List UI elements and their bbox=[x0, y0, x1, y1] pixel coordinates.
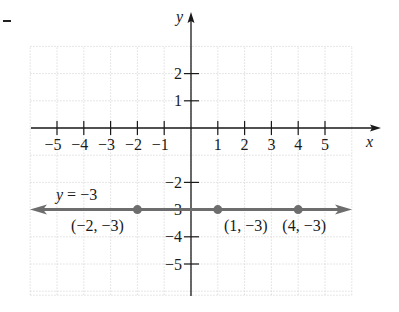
x-tick-label: −5 bbox=[44, 136, 61, 153]
x-tick-label: −1 bbox=[152, 136, 169, 153]
data-point bbox=[213, 205, 222, 214]
point-label: (1, −3) bbox=[224, 217, 268, 235]
equation-label: y = −3 bbox=[54, 186, 97, 204]
x-tick-label: −2 bbox=[125, 136, 142, 153]
y-tick-label: −5 bbox=[165, 256, 182, 273]
x-axis-label: x bbox=[365, 133, 373, 150]
point-label: (4, −3) bbox=[282, 217, 326, 235]
corner-mark bbox=[3, 20, 11, 22]
x-tick-label: 2 bbox=[241, 136, 249, 153]
x-tick-label: 3 bbox=[267, 136, 275, 153]
x-tick-label: −4 bbox=[71, 136, 88, 153]
x-tick-label: −3 bbox=[98, 136, 115, 153]
y-tick-label: −2 bbox=[165, 174, 182, 191]
y-tick-label: 2 bbox=[174, 65, 182, 82]
y-tick-label: −4 bbox=[165, 228, 182, 245]
x-tick-label: 4 bbox=[294, 136, 302, 153]
x-tick-label: 5 bbox=[321, 136, 329, 153]
y-axis-label: y bbox=[174, 8, 184, 26]
annotations: y = −3 bbox=[54, 186, 97, 204]
y-tick-label: 1 bbox=[174, 92, 182, 109]
data-point bbox=[133, 205, 142, 214]
coordinate-plane: xy −5−4−3−2−11234521−2−3−4−5 (−2, −3)(1,… bbox=[0, 0, 399, 312]
data-point bbox=[294, 205, 303, 214]
point-label: (−2, −3) bbox=[71, 217, 124, 235]
x-tick-label: 1 bbox=[214, 136, 222, 153]
tick-labels: −5−4−3−2−11234521−2−3−4−5 bbox=[44, 65, 329, 272]
